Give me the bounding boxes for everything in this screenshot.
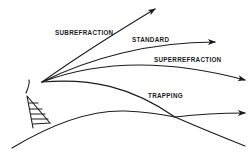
label-standard: STANDARD <box>132 36 169 43</box>
refraction-diagram: SUBREFRACTION STANDARD SUPERREFRACTION T… <box>0 0 251 152</box>
subrefraction-ray <box>42 9 155 82</box>
label-trapping: TRAPPING <box>148 92 183 99</box>
superrefraction-ray <box>42 65 245 82</box>
earth-surface <box>12 111 175 148</box>
label-superrefraction: SUPERREFRACTION <box>154 56 222 63</box>
trapped-surface-ray <box>175 113 245 117</box>
antenna-tower-icon <box>26 80 50 128</box>
label-subrefraction: SUBREFRACTION <box>55 29 114 36</box>
